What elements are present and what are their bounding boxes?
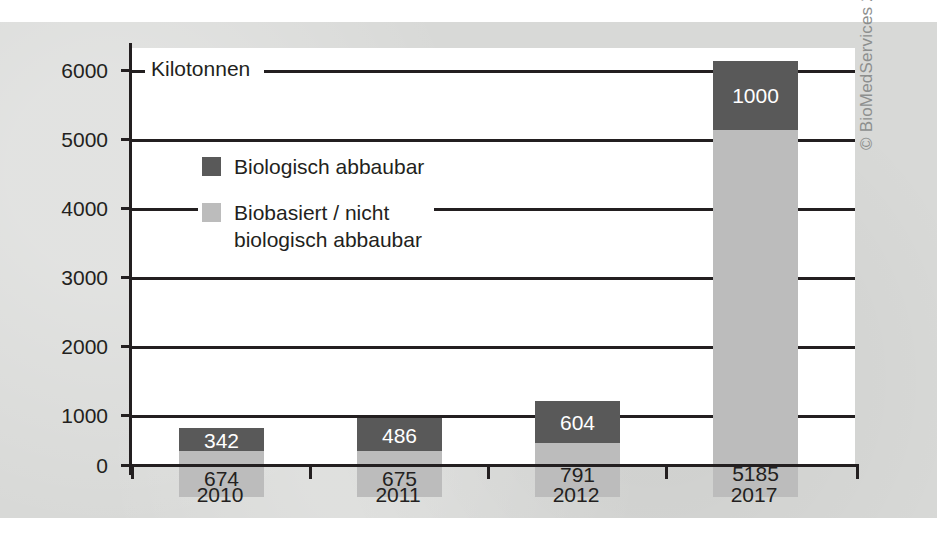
bar-label-2012-biodegradable: 604	[535, 412, 620, 433]
y-tick-label-5000: 5000	[38, 129, 108, 150]
y-tick-0	[121, 464, 131, 467]
y-tick-label-3000: 3000	[38, 267, 108, 288]
y-axis-line	[129, 43, 132, 475]
y-tick-2000	[121, 345, 131, 348]
legend-item-biodegradable: Biologisch abbaubar	[202, 154, 424, 180]
bar-2017-biodegradable: 1000	[713, 61, 798, 130]
plot-area: 342 674 486 675 604 791 1000 5185 Kiloto…	[131, 48, 855, 466]
y-tick-label-6000: 6000	[38, 60, 108, 81]
legend-label-biobased: Biobasiert / nicht biologisch abbaubar	[234, 200, 422, 253]
x-tick-2012-2017	[665, 466, 668, 479]
y-tick-6000	[121, 69, 131, 72]
y-tick-label-4000: 4000	[38, 198, 108, 219]
bar-2017-biobased-nonbiodegradable: 5185	[713, 130, 798, 497]
x-category-2012: 2012	[516, 484, 636, 505]
legend-swatch-dark-icon	[202, 157, 221, 176]
legend-label-biodegradable: Biologisch abbaubar	[234, 154, 424, 180]
x-category-2011: 2011	[338, 484, 458, 505]
bar-2012-biodegradable: 604	[535, 401, 620, 443]
copyright-credit: © BioMedServices 2015	[857, 0, 877, 150]
bar-label-2017-biodegradable: 1000	[713, 85, 798, 106]
legend-swatch-light-icon	[202, 203, 221, 222]
bar-label-2010-biodegradable: 342	[179, 430, 264, 451]
chart-figure: 342 674 486 675 604 791 1000 5185 Kiloto…	[0, 0, 937, 554]
y-axis-title: Kilotonnen	[145, 56, 264, 81]
y-tick-3000	[121, 276, 131, 279]
x-tick-start	[131, 466, 134, 479]
x-axis-line	[131, 464, 859, 467]
x-category-2017: 2017	[694, 484, 814, 505]
y-tick-label-2000: 2000	[38, 336, 108, 357]
bar-label-2011-biodegradable: 486	[357, 425, 442, 446]
bar-label-2012-biobased: 791	[535, 464, 620, 485]
y-tick-1000	[121, 414, 131, 417]
y-tick-4000	[121, 207, 131, 210]
x-tick-2010-2011	[309, 466, 312, 479]
x-tick-end	[856, 466, 859, 479]
bar-2011-biodegradable: 486	[357, 418, 442, 451]
y-tick-label-1000: 1000	[38, 405, 108, 426]
bar-2010-biodegradable: 342	[179, 428, 264, 451]
legend-item-biobased: Biobasiert / nicht biologisch abbaubar	[202, 200, 424, 253]
y-tick-label-0: 0	[38, 455, 108, 476]
x-tick-2011-2012	[487, 466, 490, 479]
chart-legend: Biologisch abbaubar Biobasiert / nicht b…	[198, 150, 434, 259]
y-tick-5000	[121, 138, 131, 141]
x-category-2010: 2010	[160, 484, 280, 505]
